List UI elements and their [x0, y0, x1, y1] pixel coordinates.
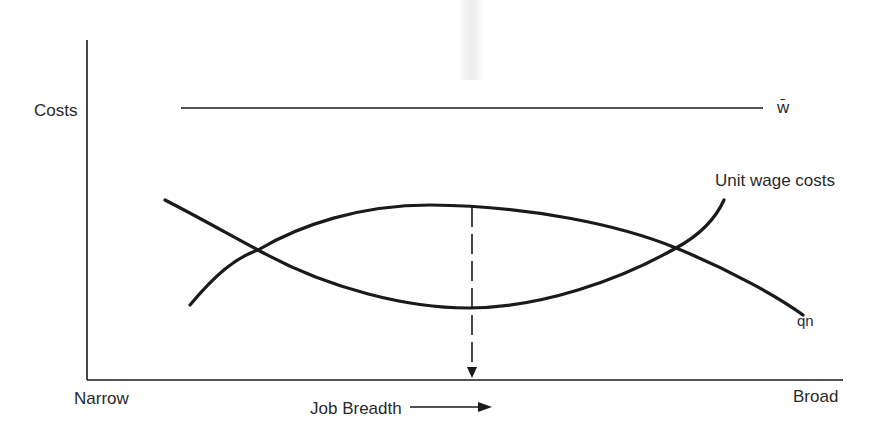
job-breadth-cost-diagram: Costs w̄ Unit wage costs qn Narrow Broad…	[0, 0, 884, 438]
x-axis-label-narrow: Narrow	[74, 390, 129, 407]
wbar-label: w̄	[777, 99, 789, 116]
y-axis-label-costs: Costs	[34, 102, 77, 119]
optimum-arrowhead-icon	[467, 367, 477, 378]
qn-label: qn	[797, 313, 814, 328]
x-axis-title-job-breadth: Job Breadth	[310, 400, 402, 417]
right-arrow-icon	[478, 402, 492, 412]
unit-wage-costs-label: Unit wage costs	[715, 172, 835, 189]
x-axis-label-broad: Broad	[793, 388, 838, 405]
diagram-canvas	[0, 0, 884, 438]
